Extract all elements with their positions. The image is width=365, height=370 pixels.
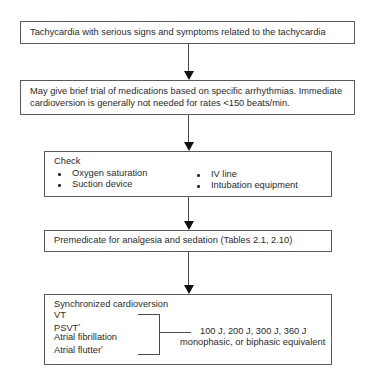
bullet-icon (197, 174, 200, 177)
bullet-icon (58, 173, 61, 176)
node-text-line-2: cardioversion is generally not needed fo… (30, 98, 290, 109)
rhythm-atrial-fibrillation: Atrial fibrillation (54, 332, 117, 343)
bracket-top (138, 314, 159, 315)
check-item: Oxygen saturation (72, 168, 147, 179)
connector-line (188, 44, 189, 72)
bracket-connector (159, 332, 191, 333)
node-text: Tachycardia with serious signs and sympt… (30, 27, 326, 38)
energy-type: monophasic, or biphasic equivalent (180, 337, 325, 348)
arrowhead-icon (184, 71, 194, 80)
connector-line (188, 115, 189, 143)
check-item: Suction device (72, 179, 132, 190)
check-item: Intubation equipment (211, 180, 298, 191)
rhythm-atrial-flutter: Atrial flutter* (54, 343, 103, 356)
node-medication-trial: May give brief trial of medications base… (20, 80, 355, 115)
connector-line (188, 197, 189, 222)
arrowhead-icon (184, 142, 194, 151)
bullet-icon (197, 185, 200, 188)
node-premedicate: Premedicate for analgesia and sedation (… (44, 230, 332, 252)
rhythm-label: Atrial flutter (54, 345, 101, 355)
cardioversion-title: Synchronized cardioversion (54, 299, 168, 310)
rhythm-label: Atrial fibrillation (54, 332, 117, 342)
check-title: Check (54, 156, 80, 167)
footnote-marker: * (101, 345, 103, 351)
arrowhead-icon (184, 285, 194, 294)
node-text: Premedicate for analgesia and sedation (… (54, 235, 292, 246)
bracket-vertical (159, 314, 160, 355)
energy-levels: 100 J, 200 J, 300 J, 360 J (200, 326, 306, 337)
footnote-marker: * (78, 323, 80, 329)
check-item: IV line (211, 169, 237, 180)
rhythm-label: VT (54, 310, 66, 320)
node-tachycardia-serious-signs: Tachycardia with serious signs and sympt… (20, 21, 355, 44)
bracket-bottom (138, 354, 159, 355)
node-synchronized-cardioversion: Synchronized cardioversion VT PSVT* Atri… (44, 294, 332, 365)
bullet-icon (58, 184, 61, 187)
node-check-equipment: Check Oxygen saturation Suction device I… (44, 151, 332, 197)
connector-line (188, 252, 189, 286)
rhythm-vt: VT (54, 310, 66, 321)
arrowhead-icon (184, 221, 194, 230)
node-text-line-1: May give brief trial of medications base… (30, 86, 342, 97)
